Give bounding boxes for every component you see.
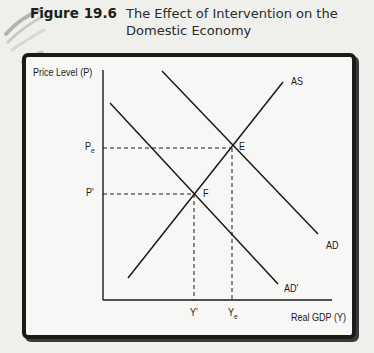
- as-label: AS: [291, 75, 303, 87]
- point-f-label: F: [203, 187, 209, 199]
- ad-curve: [162, 71, 318, 234]
- ye-tick-label: Ye: [228, 306, 238, 321]
- as-curve: [128, 82, 283, 278]
- yprime-tick-label: Y': [190, 306, 198, 318]
- point-e-label: E: [239, 140, 245, 152]
- ad-label: AD: [326, 239, 339, 251]
- y-axis-label: Price Level (P): [33, 66, 92, 78]
- pprime-tick-label: P': [86, 186, 94, 198]
- ad-prime-curve: [110, 103, 278, 284]
- ad-prime-label: AD': [284, 282, 298, 294]
- x-axis-label: Real GDP (Y): [291, 311, 346, 323]
- pe-tick-label: Pe: [85, 140, 95, 155]
- chart-plot: [0, 0, 374, 353]
